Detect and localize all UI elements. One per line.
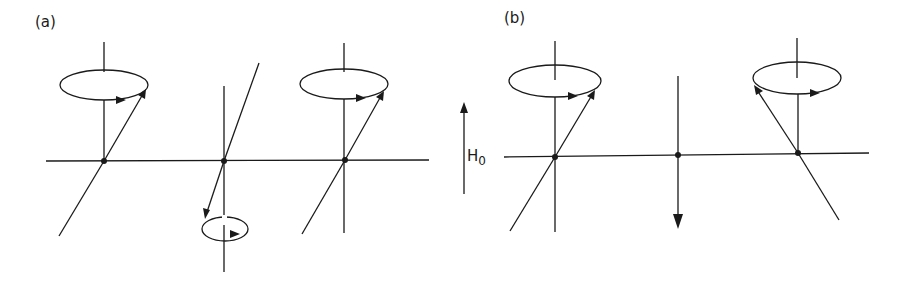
- panel-a-label: (a): [35, 13, 56, 31]
- spin-vector: [207, 161, 224, 212]
- spin-b-left: [509, 41, 601, 232]
- panel-a: (a): [35, 13, 429, 272]
- spin-upper-line: [224, 63, 259, 161]
- panel-b-label: (b): [504, 9, 525, 27]
- spin-a-right: [300, 43, 388, 234]
- chain-axis-b: [504, 153, 869, 157]
- field-label: H0: [467, 147, 486, 168]
- spin-b-middle: [673, 76, 683, 229]
- precession-arrow-icon: [568, 92, 578, 100]
- field-arrow-up-icon: [460, 102, 468, 113]
- precession-arrow-icon: [230, 230, 240, 238]
- precession-arrow-icon: [116, 96, 126, 104]
- lattice-site-dot: [101, 158, 107, 164]
- spin-vector: [104, 94, 143, 161]
- spin-b-right: [753, 38, 841, 220]
- precession-arrow-icon: [810, 89, 820, 97]
- spin-arrowhead-down-icon: [673, 214, 683, 229]
- precession-cone-ellipse: [300, 69, 388, 99]
- spin-diagram: (a): [0, 0, 902, 283]
- spin-vector: [757, 90, 798, 153]
- spin-vector: [345, 96, 381, 160]
- panel-b: (b): [504, 9, 869, 232]
- lattice-site-dot: [795, 150, 801, 156]
- lattice-site-dot: [552, 154, 558, 160]
- spin-a-middle: [202, 63, 259, 272]
- spin-tail-line: [302, 160, 345, 234]
- precession-cone-ellipse: [60, 70, 148, 100]
- spin-vector: [555, 95, 592, 157]
- axis-gap: [222, 215, 227, 225]
- field-indicator: H0: [460, 102, 486, 194]
- spin-tail-line: [510, 157, 555, 231]
- lattice-site-dot: [342, 157, 348, 163]
- lattice-site-dot: [675, 152, 681, 158]
- lattice-site-dot: [221, 158, 227, 164]
- spin-tail-line: [59, 161, 104, 236]
- spin-arrowhead-icon: [203, 208, 210, 219]
- precession-arrow-icon: [356, 94, 366, 102]
- spin-a-left: [59, 42, 148, 236]
- spin-tail-line: [798, 153, 839, 220]
